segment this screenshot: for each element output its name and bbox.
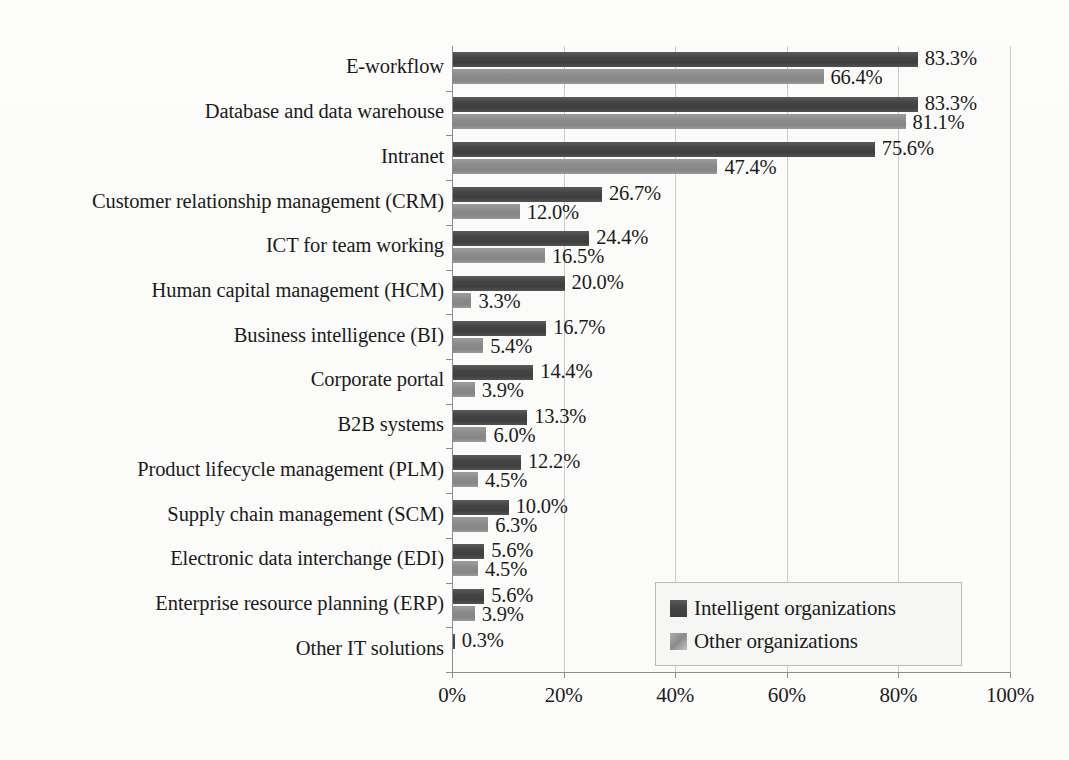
chart-legend: Intelligent organizations Other organiza… — [655, 582, 962, 666]
x-tick-80% — [898, 672, 899, 678]
x-tick-0% — [452, 672, 453, 678]
category-label: Electronic data interchange (EDI) — [4, 547, 444, 570]
bar-series0 — [453, 544, 484, 559]
bar-series0 — [453, 142, 875, 157]
y-tick — [446, 270, 452, 271]
bar-series1 — [453, 159, 717, 174]
bar-series1 — [453, 204, 520, 219]
category-label: Product lifecycle management (PLM) — [4, 458, 444, 481]
bar-series1 — [453, 427, 486, 442]
bar-series1 — [453, 382, 475, 397]
y-tick — [446, 404, 452, 405]
legend-item-intelligent-organizations: Intelligent organizations — [670, 592, 961, 625]
y-tick — [446, 493, 452, 494]
value-label-series0: 0.3% — [462, 629, 504, 652]
y-tick — [446, 180, 452, 181]
bar-series0 — [453, 365, 533, 380]
x-tick-label: 80% — [879, 683, 917, 708]
bar-series1 — [453, 472, 478, 487]
bar-series0 — [453, 97, 918, 112]
value-label-series0: 12.2% — [528, 450, 580, 473]
bar-series1 — [453, 293, 471, 308]
value-label-series1: 66.4% — [831, 66, 883, 89]
x-tick-60% — [787, 672, 788, 678]
value-label-series0: 20.0% — [572, 271, 624, 294]
value-label-series0: 13.3% — [534, 405, 586, 428]
bar-series0 — [453, 52, 918, 67]
x-axis-line — [452, 672, 1011, 673]
value-label-series1: 81.1% — [913, 111, 965, 134]
value-label-series1: 3.3% — [478, 290, 520, 313]
category-label: Customer relationship management (CRM) — [4, 190, 444, 213]
x-tick-label: 60% — [768, 683, 806, 708]
x-tick-100% — [1010, 672, 1011, 678]
y-tick — [446, 314, 452, 315]
y-tick — [446, 448, 452, 449]
category-label: Enterprise resource planning (ERP) — [4, 592, 444, 615]
value-label-series0: 75.6% — [882, 137, 934, 160]
category-label: B2B systems — [4, 413, 444, 436]
category-label: Corporate portal — [4, 368, 444, 391]
category-label: E-workflow — [4, 55, 444, 78]
bar-series1 — [453, 517, 488, 532]
value-label-series0: 16.7% — [553, 316, 605, 339]
legend-swatch-icon-series1 — [670, 633, 687, 650]
bar-series1 — [453, 561, 478, 576]
legend-swatch-icon-series0 — [670, 600, 687, 617]
bar-series0 — [453, 187, 602, 202]
bar-series0 — [453, 500, 509, 515]
gridline-40% — [675, 46, 676, 672]
bar-series0 — [453, 410, 527, 425]
legend-label-series0: Intelligent organizations — [694, 596, 896, 621]
legend-item-other-organizations: Other organizations — [670, 625, 961, 658]
bar-series1 — [453, 69, 824, 84]
value-label-series1: 4.5% — [485, 469, 527, 492]
y-tick — [446, 359, 452, 360]
bar-series0 — [453, 231, 589, 246]
category-label: Other IT solutions — [4, 637, 444, 660]
gridline-60% — [787, 46, 788, 672]
category-label: ICT for team working — [4, 234, 444, 257]
gridline-0% — [452, 46, 453, 672]
x-tick-label: 20% — [545, 683, 583, 708]
category-label: Supply chain management (SCM) — [4, 503, 444, 526]
bar-series1 — [453, 114, 906, 129]
y-tick — [446, 135, 452, 136]
x-tick-40% — [675, 672, 676, 678]
category-label: Human capital management (HCM) — [4, 279, 444, 302]
y-tick — [446, 91, 452, 92]
value-label-series1: 6.0% — [493, 424, 535, 447]
value-label-series0: 83.3% — [925, 47, 977, 70]
category-label: Intranet — [4, 145, 444, 168]
bar-series0 — [453, 321, 546, 336]
bar-series1 — [453, 606, 475, 621]
y-tick — [446, 538, 452, 539]
legend-label-series1: Other organizations — [694, 629, 858, 654]
gridline-100% — [1010, 46, 1011, 672]
value-label-series1: 5.4% — [490, 335, 532, 358]
y-tick — [446, 583, 452, 584]
value-label-series1: 47.4% — [724, 156, 776, 179]
value-label-series1: 4.5% — [485, 558, 527, 581]
value-label-series0: 26.7% — [609, 182, 661, 205]
value-label-series1: 3.9% — [482, 603, 524, 626]
bar-series0 — [453, 634, 455, 649]
category-label: Business intelligence (BI) — [4, 324, 444, 347]
x-tick-20% — [564, 672, 565, 678]
value-label-series0: 14.4% — [540, 360, 592, 383]
value-label-series1: 3.9% — [482, 379, 524, 402]
category-label: Database and data warehouse — [4, 100, 444, 123]
x-tick-label: 40% — [656, 683, 694, 708]
bar-series1 — [453, 338, 483, 353]
value-label-series1: 6.3% — [495, 514, 537, 537]
value-label-series1: 12.0% — [527, 201, 579, 224]
bar-series0 — [453, 455, 521, 470]
value-label-series1: 16.5% — [552, 245, 604, 268]
bar-series0 — [453, 589, 484, 604]
x-tick-label: 100% — [986, 683, 1034, 708]
x-tick-label: 0% — [438, 683, 466, 708]
gridline-20% — [564, 46, 565, 672]
bar-series1 — [453, 248, 545, 263]
bar-chart: 0%20%40%60%80%100% E-workflowDatabase an… — [0, 0, 1069, 760]
y-tick — [446, 627, 452, 628]
